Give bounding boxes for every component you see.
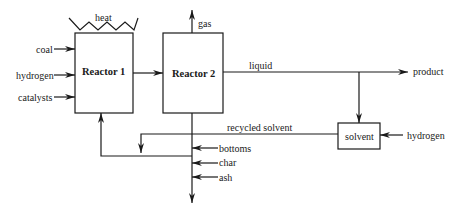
liquid-label: liquid — [249, 60, 272, 71]
char-label: char — [219, 157, 236, 168]
product-label: product — [413, 66, 444, 77]
heat-label: heat — [95, 12, 112, 23]
ash-label: ash — [219, 172, 232, 183]
gas-label: gas — [198, 18, 211, 29]
catalysts-label: catalysts — [18, 92, 52, 103]
reactor-2-label: Reactor 2 — [172, 68, 215, 79]
solvent-label: solvent — [345, 131, 374, 142]
solvent-hydrogen-label: hydrogen — [407, 130, 445, 141]
recycled-solvent-label: recycled solvent — [227, 122, 292, 133]
reactor-1-label: Reactor 1 — [82, 66, 125, 77]
bottoms-label: bottoms — [219, 143, 251, 154]
coal-label: coal — [36, 44, 53, 55]
hydrogen-label: hydrogen — [16, 70, 54, 81]
